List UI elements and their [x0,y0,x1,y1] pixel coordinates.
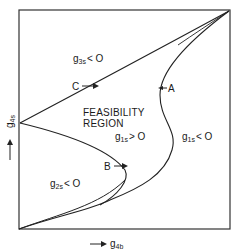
svg-text:g2s< O: g2s< O [50,178,81,190]
up-arrow-icon [7,139,13,160]
y-axis-label: g4s [4,115,16,128]
label-g2s-lt-0: g2s< O [50,178,81,190]
label-g1s-gt-0: g1s> O [115,131,146,143]
svg-text:g3s< O: g3s< O [73,53,104,65]
region-title-line2: REGION [83,118,124,129]
x-axis-label: g4b [110,238,123,250]
svg-text:C: C [72,81,79,92]
svg-text:B: B [104,161,111,172]
curve-g1s-outer-boundary [19,11,229,229]
right-arrow-icon [90,241,107,247]
feasibility-diagram: C A B FEASIBILITY REGION g3s< O g1s> O g… [0,0,234,252]
point-b-marker: B [104,161,128,172]
svg-text:g1s> O: g1s> O [115,131,146,143]
svg-text:A: A [168,83,175,94]
svg-text:g4b: g4b [110,238,123,250]
svg-text:g1s< O: g1s< O [182,131,213,143]
svg-text:g4s: g4s [4,115,16,128]
right-arrowhead-icon [122,163,128,169]
label-g3s-lt-0: g3s< O [73,53,104,65]
plot-frame [19,10,230,229]
curve-top-join [178,11,229,45]
label-g1s-lt-0: g1s< O [182,131,213,143]
right-arrowhead-icon [93,83,99,89]
region-title-line1: FEASIBILITY [83,107,145,118]
